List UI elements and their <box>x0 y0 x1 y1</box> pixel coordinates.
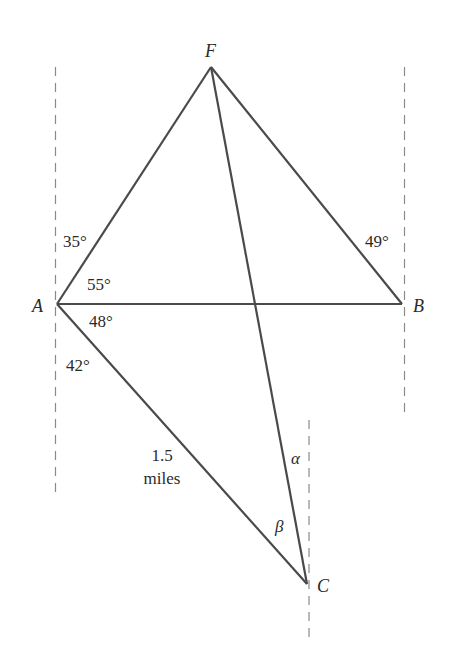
segment-af <box>57 67 211 304</box>
angle-label-55: 55° <box>87 276 111 293</box>
angle-label-42: 42° <box>66 357 90 374</box>
angle-label-35: 35° <box>63 233 87 250</box>
segment-fc <box>211 67 307 584</box>
point-label-a: A <box>32 297 43 315</box>
distance-value: 1.5 <box>147 447 177 464</box>
angle-label-alpha: α <box>291 450 300 467</box>
point-label-c: C <box>317 577 329 595</box>
point-label-b: B <box>413 297 424 315</box>
segment-ac <box>57 304 307 584</box>
angle-label-48: 48° <box>89 313 113 330</box>
point-label-f: F <box>205 42 216 60</box>
distance-unit: miles <box>137 470 187 487</box>
diagram-canvas <box>0 0 452 646</box>
angle-label-beta: β <box>275 518 283 535</box>
angle-label-49: 49° <box>365 233 389 250</box>
segment-fb <box>211 67 402 304</box>
